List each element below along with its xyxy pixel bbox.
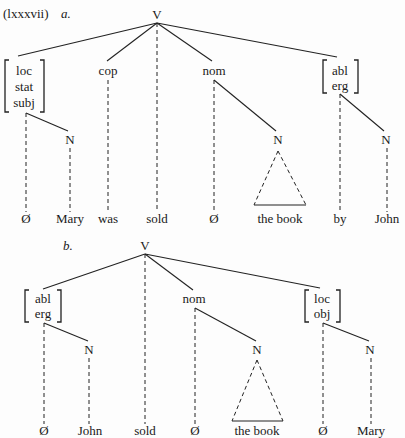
case-loc: loc — [16, 63, 32, 78]
terminal: sold — [134, 423, 156, 438]
case-erg: erg — [35, 306, 52, 321]
nom-node: nom — [182, 291, 205, 306]
example-number: (lxxxvii) — [3, 6, 49, 21]
tree-b-label: b. — [63, 238, 73, 253]
terminal: the book — [234, 423, 280, 438]
n-node: N — [252, 342, 262, 357]
case-abl: abl — [332, 63, 348, 78]
case-obj: obj — [314, 306, 331, 321]
tree-a: (lxxxvii) a. V loc stat subj N cop nom N — [3, 6, 400, 226]
terminal: John — [78, 423, 103, 438]
tree-b: b. V abl erg N nom N loc obj N Ø Joh — [25, 238, 386, 438]
terminal: Ø — [190, 423, 199, 438]
cop-node: cop — [99, 63, 118, 78]
case-loc: loc — [314, 291, 330, 306]
case-stat: stat — [15, 79, 33, 94]
case-subj: subj — [13, 95, 35, 110]
n-node: N — [84, 342, 94, 357]
terminal: by — [334, 211, 348, 226]
n-node: N — [65, 132, 75, 147]
nom-node: nom — [202, 63, 225, 78]
terminal: John — [375, 211, 400, 226]
case-abl: abl — [35, 291, 51, 306]
terminal: was — [98, 211, 118, 226]
terminal: Ø — [39, 423, 48, 438]
terminal: sold — [146, 211, 168, 226]
case-erg: erg — [332, 78, 349, 93]
terminal: Ø — [21, 211, 30, 226]
terminal: Ø — [209, 211, 218, 226]
terminal: Ø — [318, 423, 327, 438]
terminal: the book — [257, 211, 303, 226]
terminal: Mary — [357, 423, 386, 438]
terminal: Mary — [56, 211, 85, 226]
tree-a-label: a. — [61, 6, 71, 21]
n-node: N — [273, 132, 283, 147]
n-node: N — [365, 342, 375, 357]
dependency-diagram: (lxxxvii) a. V loc stat subj N cop nom N — [0, 0, 405, 438]
tree-b-root: V — [140, 238, 150, 253]
n-node: N — [381, 132, 391, 147]
tree-a-root: V — [152, 7, 162, 22]
